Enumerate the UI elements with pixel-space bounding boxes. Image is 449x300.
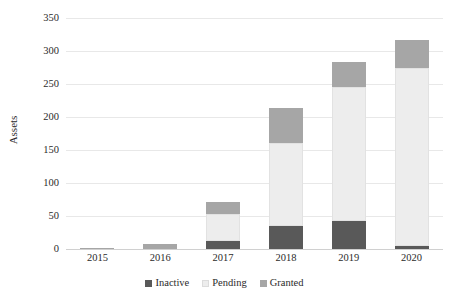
y-tick-label: 350 — [43, 13, 59, 24]
bar-segment-granted-2020 — [395, 40, 429, 67]
bar-stack — [332, 62, 366, 249]
bar-group-2017 — [206, 18, 240, 249]
legend-label: Pending — [212, 278, 246, 289]
bar-segment-granted-2015 — [80, 248, 114, 249]
bar-segment-granted-2017 — [206, 202, 240, 214]
y-axis-title: Assets — [2, 0, 24, 260]
gridline-0: 0 — [66, 249, 443, 250]
x-tick-label-2016: 2016 — [150, 253, 171, 264]
x-tick-label-2020: 2020 — [401, 253, 422, 264]
bar-segment-granted-2016 — [143, 244, 177, 249]
bar-segment-inactive-2017 — [206, 241, 240, 249]
legend-label: Inactive — [155, 278, 189, 289]
x-tick-label-2018: 2018 — [275, 253, 296, 264]
chart-legend: InactivePendingGranted — [0, 278, 449, 289]
bar-segment-pending-2018 — [269, 143, 303, 226]
bar-group-2020 — [395, 18, 429, 249]
y-tick-label: 300 — [43, 46, 59, 57]
bar-segment-pending-2019 — [332, 87, 366, 221]
legend-swatch-granted-icon — [260, 280, 267, 287]
bars-layer — [66, 18, 443, 249]
x-tick-label-2019: 2019 — [338, 253, 359, 264]
x-axis-labels: 201520162017201820192020 — [66, 251, 443, 269]
legend-label: Granted — [270, 278, 304, 289]
x-tick-label-2017: 2017 — [213, 253, 234, 264]
legend-item-inactive[interactable]: Inactive — [145, 278, 189, 289]
legend-item-pending[interactable]: Pending — [202, 278, 246, 289]
stacked-bar-chart: Assets 050100150200250300350 20152016201… — [0, 0, 449, 300]
y-tick-label: 150 — [43, 145, 59, 156]
y-tick-label: 250 — [43, 79, 59, 90]
y-tick-label: 100 — [43, 178, 59, 189]
legend-item-granted[interactable]: Granted — [260, 278, 304, 289]
bar-stack — [80, 248, 114, 249]
bar-group-2018 — [269, 18, 303, 249]
bar-segment-pending-2020 — [395, 68, 429, 246]
y-axis-title-label: Assets — [7, 116, 19, 145]
bar-segment-granted-2018 — [269, 108, 303, 142]
bar-stack — [143, 244, 177, 249]
legend-swatch-inactive-icon — [145, 280, 152, 287]
bar-group-2016 — [143, 18, 177, 249]
bar-stack — [206, 202, 240, 249]
bar-segment-inactive-2019 — [332, 221, 366, 249]
bar-segment-granted-2019 — [332, 62, 366, 87]
x-tick-label-2015: 2015 — [87, 253, 108, 264]
bar-group-2015 — [80, 18, 114, 249]
bar-stack — [395, 40, 429, 249]
bar-segment-pending-2017 — [206, 214, 240, 241]
legend-swatch-pending-icon — [202, 280, 209, 287]
plot-area: 050100150200250300350 — [66, 18, 443, 249]
bar-group-2019 — [332, 18, 366, 249]
y-tick-label: 50 — [49, 211, 60, 222]
y-tick-label: 200 — [43, 112, 59, 123]
y-tick-label: 0 — [54, 244, 59, 255]
bar-stack — [269, 108, 303, 249]
bar-segment-inactive-2020 — [395, 246, 429, 249]
bar-segment-inactive-2018 — [269, 226, 303, 249]
